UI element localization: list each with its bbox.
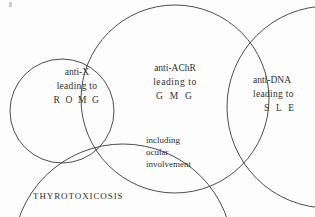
thyrotoxicosis-line-1: THYROTOXICOSIS: [33, 190, 123, 203]
anti-x-line-3: R O M G: [44, 94, 110, 108]
anti-x-label: anti-X leading to R O M G: [44, 66, 110, 107]
anti-achr-line-2: leading to: [129, 76, 221, 90]
anti-achr-sub-line-1: including: [146, 134, 232, 146]
anti-achr-label: anti-AChR leading to G M G: [129, 62, 221, 103]
thyrotoxicosis-label: THYROTOXICOSIS: [33, 190, 123, 203]
anti-achr-sub-line-3: involvement: [146, 158, 232, 170]
anti-dna-label: anti-DNA leading to S L E: [253, 74, 315, 115]
anti-dna-line-3: S L E: [253, 102, 315, 116]
anti-dna-line-2: leading to: [253, 88, 315, 102]
anti-dna-line-1: anti-DNA: [253, 74, 315, 88]
anti-achr-sub-line-2: ocular: [146, 146, 232, 158]
anti-achr-line-3: G M G: [129, 90, 221, 104]
anti-x-line-2: leading to: [44, 80, 110, 94]
anti-achr-line-1: anti-AChR: [129, 62, 221, 76]
anti-x-line-1: anti-X: [44, 66, 110, 80]
venn-diagram: anti-X leading to R O M G anti-AChR lead…: [0, 0, 315, 217]
anti-achr-sublabel: including ocular involvement: [146, 134, 232, 170]
